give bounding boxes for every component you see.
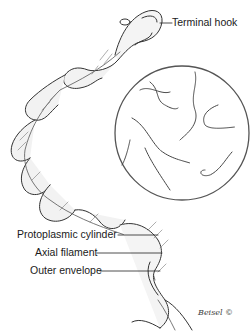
label-outer-envelope: Outer envelope — [30, 265, 102, 276]
spiral-body-lower — [120, 222, 192, 330]
terminal-hook-shape — [115, 10, 162, 60]
artist-signature: Beisel © — [198, 308, 233, 317]
spirochete-illustration — [0, 0, 250, 333]
label-terminal-hook: Terminal hook — [172, 17, 237, 28]
magnified-inset — [115, 66, 249, 200]
label-protoplasmic-cylinder: Protoplasmic cylinder — [17, 229, 117, 240]
label-axial-filament: Axial filament — [35, 247, 97, 258]
